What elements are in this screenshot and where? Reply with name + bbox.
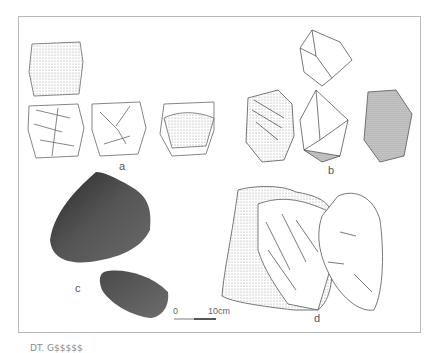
panel-b-drawings <box>246 30 412 162</box>
panel-a-label: a <box>119 160 125 172</box>
panel-c-photo-small <box>100 271 168 318</box>
scale-bar <box>174 318 216 320</box>
panel-d-label: d <box>314 312 320 324</box>
figure-caption: DT. G$$$$$ <box>30 343 83 353</box>
panel-b-label: b <box>328 164 334 176</box>
panel-c-label: c <box>75 282 81 294</box>
scale-start-label: 0 <box>173 306 178 316</box>
panel-c-photo-large <box>50 172 150 262</box>
panel-d-drawings <box>222 187 382 311</box>
scale-end-label: 10cm <box>208 306 230 316</box>
panel-a-drawings <box>28 42 214 158</box>
